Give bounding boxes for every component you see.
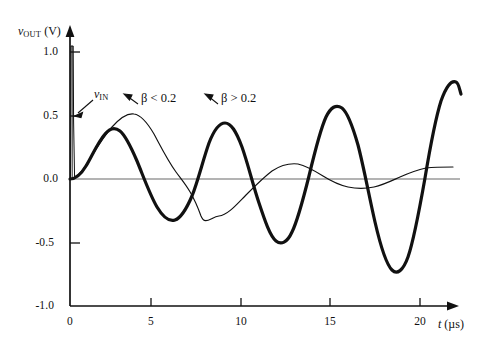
x-tick-marks	[151, 298, 420, 306]
x-axis-title-symbol: t	[438, 317, 441, 331]
y-tick-label-2: 0.5	[24, 110, 58, 122]
x-axis-title: t (µs)	[438, 318, 464, 330]
y-tick-label-4: -0.5	[20, 237, 54, 249]
y-tick-label-3: 0.0	[24, 173, 58, 185]
x-tick-label-2: 5	[136, 316, 166, 328]
y-tick-marks	[70, 52, 80, 243]
y-axis-title-subscript: OUT	[23, 30, 41, 39]
x-tick-label-4: 15	[315, 316, 345, 328]
x-tick-label-5: 20	[405, 316, 435, 328]
figure-container: vOUT (V) t (µs) 1.0 0.5 0.0 -0.5 -1.0 0 …	[0, 0, 484, 352]
y-axis-title: vOUT (V)	[18, 25, 61, 37]
curve-beta-low	[70, 114, 453, 221]
annotation-beta-low: β < 0.2	[141, 92, 176, 105]
annotation-vin-subscript: IN	[99, 93, 108, 102]
x-tick-label-1: 0	[55, 316, 85, 328]
x-tick-label-3: 10	[226, 316, 256, 328]
plot-canvas	[0, 0, 484, 352]
vin-leader-line	[78, 100, 93, 113]
x-axis-title-unit: (µs)	[444, 317, 464, 331]
x-axis-arrowhead	[447, 302, 459, 311]
y-axis-title-unit: (V)	[44, 24, 61, 38]
annotation-beta-high: β > 0.2	[221, 92, 256, 105]
y-tick-label-1: 1.0	[24, 46, 58, 58]
y-tick-label-5: -1.0	[20, 300, 54, 312]
annotation-vin: vIN	[94, 88, 109, 100]
y-axis-arrowhead	[66, 25, 75, 37]
